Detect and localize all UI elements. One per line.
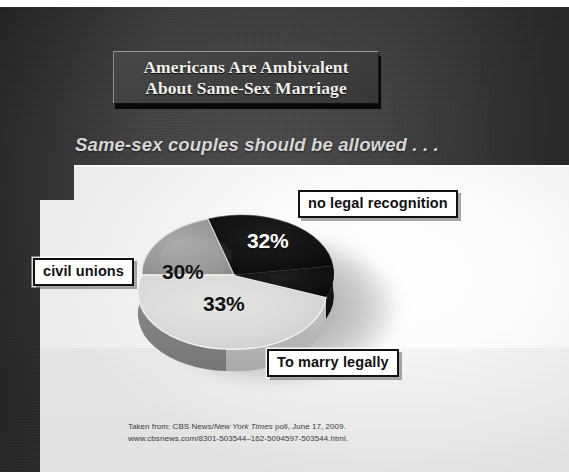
poster-graphic: Americans Are Ambivalent About Same-Sex … [0, 0, 569, 472]
page-title: Americans Are Ambivalent About Same-Sex … [143, 57, 348, 99]
title-plaque: Americans Are Ambivalent About Same-Sex … [113, 51, 379, 104]
pie-value-no-legal-recognition: 32% [247, 229, 288, 253]
callout-civil-unions: civil unions [33, 258, 134, 286]
top-white-strip [0, 0, 569, 7]
source-line-1: Taken from: CBS News/New York Times poll… [128, 421, 428, 433]
source-line-1-suffix: poll, June 17, 2009. [273, 422, 346, 431]
callout-to-marry-legally: To marry legally [267, 349, 399, 377]
source-line-1-prefix: Taken from: CBS News/ [128, 422, 214, 431]
source-citation: Taken from: CBS News/New York Times poll… [128, 421, 428, 444]
pie-value-civil-unions: 30% [162, 260, 203, 284]
source-publication: New York Times [214, 422, 273, 431]
subtitle: Same-sex couples should be allowed . . . [75, 134, 495, 156]
source-url: www.cbsnews.com/8301-503544–162-5094597-… [128, 433, 428, 445]
callout-no-legal-recognition: no legal recognition [298, 190, 458, 218]
pie-value-to-marry-legally: 33% [203, 292, 244, 316]
